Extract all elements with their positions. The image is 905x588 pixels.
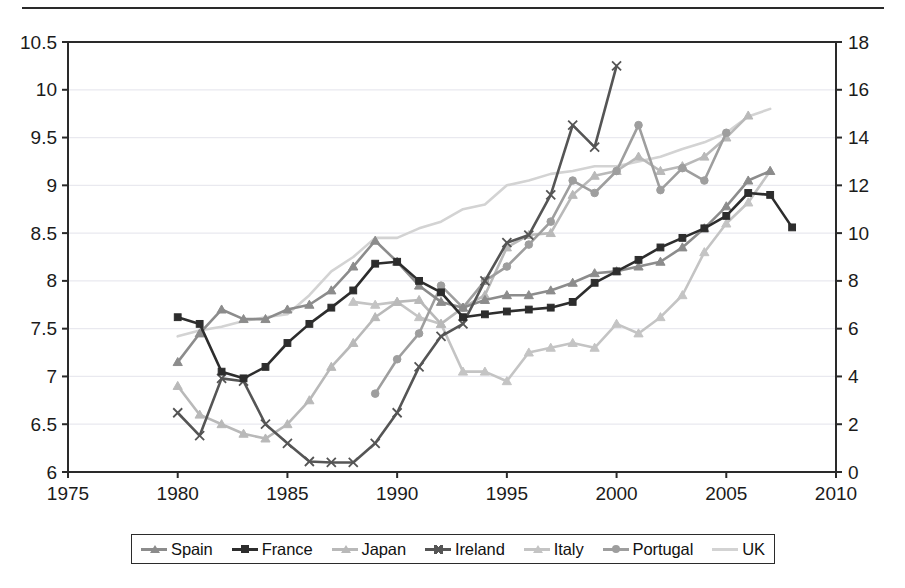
- data-point-marker: [635, 121, 643, 129]
- data-point-marker: [679, 164, 687, 172]
- data-point-marker: [217, 305, 226, 313]
- y-axis-right-tick-label: 12: [848, 175, 869, 196]
- y-axis-left-tick-label: 8: [46, 270, 57, 291]
- data-point-marker: [218, 368, 225, 375]
- data-point-marker: [766, 166, 775, 174]
- data-point-marker: [262, 363, 269, 370]
- data-point-marker: [437, 332, 446, 341]
- data-point-marker: [525, 241, 533, 249]
- data-point-marker: [394, 258, 401, 265]
- data-point-marker: [350, 287, 357, 294]
- legend-item-japan[interactable]: Japan: [332, 540, 406, 559]
- legend-item-spain[interactable]: Spain: [141, 540, 213, 559]
- x-axis-tick-label: 2000: [595, 483, 637, 504]
- series-portugal: [371, 121, 730, 397]
- data-point-marker: [240, 375, 247, 382]
- legend-marker-icon: [603, 543, 629, 555]
- legend-marker-icon: [712, 543, 738, 555]
- data-point-marker: [283, 439, 292, 448]
- legend-item-ireland[interactable]: Ireland: [425, 540, 505, 559]
- data-point-marker: [701, 177, 709, 185]
- data-point-marker: [591, 279, 598, 286]
- data-point-marker: [284, 340, 291, 347]
- legend-item-label: France: [262, 540, 313, 559]
- x-axis-tick-label: 1995: [486, 483, 528, 504]
- data-point-marker: [173, 408, 182, 417]
- data-point-marker: [701, 225, 708, 232]
- y-axis-right-tick-label: 6: [848, 318, 859, 339]
- data-point-marker: [525, 306, 532, 313]
- plot-area-wrapper: 66.577.588.599.51010.5024681012141618197…: [0, 0, 905, 520]
- x-axis-tick-label: 1980: [157, 483, 199, 504]
- data-point-marker: [569, 177, 577, 185]
- legend-marker-icon: [332, 543, 358, 555]
- y-axis-right-tick-label: 4: [848, 366, 859, 387]
- legend-item-portugal[interactable]: Portugal: [603, 540, 694, 559]
- data-point-marker: [503, 308, 510, 315]
- legend-marker-icon: [425, 543, 451, 555]
- legend-marker-icon: [232, 543, 258, 555]
- y-axis-right-tick-label: 0: [848, 462, 859, 483]
- legend-item-uk[interactable]: UK: [712, 540, 765, 559]
- data-point-marker: [547, 218, 555, 226]
- data-point-marker: [437, 282, 445, 290]
- data-point-marker: [723, 213, 730, 220]
- data-point-marker: [657, 186, 665, 194]
- data-point-marker: [482, 311, 489, 318]
- x-axis-tick-label: 1990: [376, 483, 418, 504]
- y-axis-right-tick-label: 14: [848, 127, 870, 148]
- series-line: [178, 116, 749, 439]
- y-axis-left-tick-label: 9: [46, 175, 57, 196]
- data-point-marker: [634, 152, 643, 160]
- data-point-marker: [503, 263, 511, 271]
- legend-item-label: Ireland: [455, 540, 505, 559]
- y-axis-right-tick-label: 8: [848, 270, 859, 291]
- series-japan: [173, 111, 753, 442]
- data-point-marker: [371, 439, 380, 448]
- data-point-marker: [591, 189, 599, 197]
- data-point-marker: [745, 190, 752, 197]
- legend-item-label: UK: [742, 540, 765, 559]
- data-point-marker: [612, 319, 621, 327]
- series-group: [173, 61, 795, 467]
- data-point-marker: [196, 320, 203, 327]
- data-point-marker: [173, 381, 182, 389]
- y-axis-left-tick-label: 6.5: [31, 414, 57, 435]
- gridlines-group: [68, 90, 836, 424]
- series-line: [178, 193, 792, 378]
- legend-item-label: Spain: [171, 540, 213, 559]
- y-axis-right-tick-label: 10: [848, 223, 869, 244]
- y-axis-right-tick-label: 16: [848, 79, 869, 100]
- data-point-marker: [678, 291, 687, 299]
- y-axis-right-tick-label: 18: [848, 32, 869, 53]
- x-axis-tick-label: 2010: [815, 483, 857, 504]
- data-point-marker: [547, 304, 554, 311]
- legend-item-italy[interactable]: Italy: [524, 540, 584, 559]
- data-point-marker: [393, 408, 402, 417]
- legend-item-label: Japan: [362, 540, 406, 559]
- series-france: [174, 190, 795, 382]
- line-chart-svg: 66.577.588.599.51010.5024681012141618197…: [0, 0, 905, 520]
- legend-marker-icon: [141, 543, 167, 555]
- data-point-marker: [372, 260, 379, 267]
- y-axis-left-tick-label: 8.5: [31, 223, 57, 244]
- series-spain: [173, 166, 775, 365]
- legend-item-label: Portugal: [633, 540, 694, 559]
- y-axis-right-tick-label: 2: [848, 414, 859, 435]
- data-point-marker: [613, 167, 621, 175]
- y-axis-left-tick-label: 10: [36, 79, 57, 100]
- y-axis-left-tick-label: 9.5: [31, 127, 57, 148]
- data-point-marker: [328, 304, 335, 311]
- x-axis-tick-label: 2005: [705, 483, 747, 504]
- data-point-marker: [371, 390, 379, 398]
- y-axis-left-tick-label: 7.5: [31, 318, 57, 339]
- y-axis-left-tick-label: 7: [46, 366, 57, 387]
- legend-item-france[interactable]: France: [232, 540, 313, 559]
- y-axis-left-tick-label: 10.5: [20, 32, 57, 53]
- data-point-marker: [767, 191, 774, 198]
- data-point-marker: [635, 256, 642, 263]
- data-point-marker: [174, 314, 181, 321]
- axis-frame-group: [68, 42, 836, 472]
- data-point-marker: [679, 234, 686, 241]
- legend-item-label: Italy: [554, 540, 584, 559]
